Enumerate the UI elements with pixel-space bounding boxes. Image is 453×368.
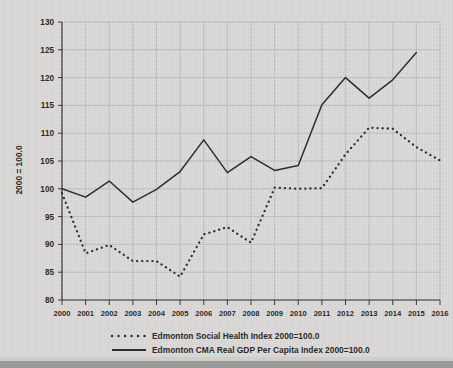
x-tick-label: 2004 [148, 309, 166, 318]
x-tick-label: 2010 [290, 309, 307, 318]
x-tick-label: 2001 [77, 309, 95, 318]
x-tick-label: 2005 [172, 309, 190, 318]
y-tick-label: 115 [41, 101, 55, 110]
chart-container: 80859095100105110115120125130 2000200120… [0, 0, 453, 368]
bottom-band-dark [0, 361, 453, 368]
y-tick-label: 110 [41, 129, 55, 138]
line-chart: 80859095100105110115120125130 2000200120… [0, 0, 453, 368]
x-axis-ticks-group: 2000200120022003200420052006200720082009… [54, 300, 449, 318]
legend-entry-social-health: Edmonton Social Health Index 2000=100.0 [112, 331, 320, 341]
x-tick-label: 2013 [361, 309, 378, 318]
legend-label-gdp: Edmonton CMA Real GDP Per Capita Index 2… [152, 345, 370, 355]
y-axis-ticks-group: 80859095100105110115120125130 [40, 18, 62, 305]
y-tick-label: 85 [45, 268, 55, 277]
x-tick-label: 2008 [243, 309, 260, 318]
chart-legend: Edmonton Social Health Index 2000=100.0 … [112, 331, 370, 355]
x-tick-label: 2012 [337, 309, 354, 318]
x-tick-label: 2014 [384, 309, 402, 318]
y-tick-label: 90 [45, 240, 55, 249]
x-tick-label: 2009 [266, 309, 283, 318]
gridlines-group [62, 22, 440, 300]
x-tick-label: 2003 [124, 309, 141, 318]
y-axis-title: 2000 = 100.0 [14, 145, 24, 194]
y-tick-label: 125 [40, 46, 54, 55]
y-tick-label: 130 [40, 18, 54, 27]
y-tick-label: 80 [45, 296, 55, 305]
x-tick-label: 2000 [54, 309, 71, 318]
y-tick-label: 95 [45, 213, 55, 222]
x-tick-label: 2015 [408, 309, 426, 318]
y-tick-label: 105 [40, 157, 54, 166]
x-tick-label: 2007 [219, 309, 236, 318]
x-tick-label: 2006 [195, 309, 212, 318]
legend-entry-gdp: Edmonton CMA Real GDP Per Capita Index 2… [112, 345, 370, 355]
x-tick-label: 2002 [101, 309, 118, 318]
y-tick-label: 120 [40, 74, 54, 83]
y-tick-label: 100 [40, 185, 54, 194]
x-tick-label: 2016 [432, 309, 449, 318]
legend-label-social-health: Edmonton Social Health Index 2000=100.0 [152, 331, 320, 341]
series-line-gdp [62, 53, 416, 203]
x-tick-label: 2011 [314, 309, 331, 318]
